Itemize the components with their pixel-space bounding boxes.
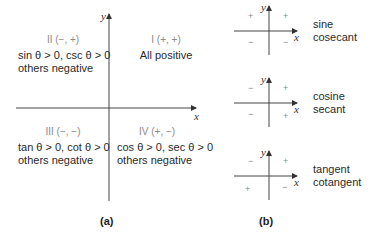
sign-q1: + (283, 156, 288, 166)
quadrant-i-text: All positive (126, 49, 206, 62)
quadrant-iii-text-1: tan θ > 0, cot θ > 0 (18, 141, 108, 154)
quadrant-iv-text-2: others negative (117, 154, 217, 167)
sign-q3: + (245, 184, 250, 194)
sign-q4: + (283, 111, 288, 121)
function-name: cotangent (313, 176, 361, 189)
quadrant-iv-label: IV (+, −) (117, 126, 217, 137)
sign-q1: + (283, 11, 288, 21)
sign-q2: + (248, 11, 253, 21)
sign-q4: − (283, 37, 288, 47)
sign-q1: + (283, 83, 288, 93)
sign-q2: − (248, 83, 253, 93)
x-axis-label: x (294, 103, 299, 115)
quadrant-i: I (+, +) All positive (126, 34, 206, 62)
x-axis-label: x (294, 176, 299, 188)
quadrant-i-label: I (+, +) (126, 34, 206, 45)
x-axis-label: x (294, 31, 299, 43)
y-axis-label: y (101, 10, 106, 22)
function-name: cosine (313, 90, 345, 103)
function-names: tangent cotangent (313, 163, 361, 189)
quadrant-ii-text-2: others negative (18, 62, 108, 75)
sign-q3: − (248, 37, 253, 47)
quadrant-ii-text-1: sin θ > 0, csc θ > 0 (18, 49, 108, 62)
function-name: secant (313, 103, 345, 116)
function-name: cosecant (313, 31, 357, 44)
quadrant-ii-label: II (−, +) (18, 34, 108, 45)
sign-q3: − (248, 109, 253, 119)
function-names: sine cosecant (313, 18, 357, 44)
y-axis-label: y (261, 146, 266, 158)
quadrant-iv: IV (+, −) cos θ > 0, sec θ > 0 others ne… (117, 126, 217, 167)
function-name: tangent (313, 163, 361, 176)
quadrant-iv-text-1: cos θ > 0, sec θ > 0 (117, 141, 217, 154)
caption-b: (b) (259, 215, 273, 227)
quadrant-iii-text-2: others negative (18, 154, 108, 167)
y-axis-label: y (261, 1, 266, 13)
function-name: sine (313, 18, 357, 31)
sign-q2: − (248, 156, 253, 166)
quadrant-iii-label: III (−, −) (18, 126, 108, 137)
caption-a: (a) (100, 215, 113, 227)
sign-q4: − (282, 182, 287, 192)
quadrant-iii: III (−, −) tan θ > 0, cot θ > 0 others n… (18, 126, 108, 167)
function-names: cosine secant (313, 90, 345, 116)
x-axis-label: x (194, 110, 199, 122)
y-axis-label: y (261, 73, 266, 85)
quadrant-ii: II (−, +) sin θ > 0, csc θ > 0 others ne… (18, 34, 108, 75)
